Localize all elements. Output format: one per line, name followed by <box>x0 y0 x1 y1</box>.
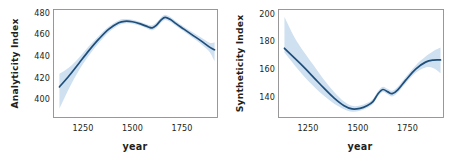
x-tick-label: 1750 <box>397 123 418 133</box>
analyticity-chart-svg: 480 460 440 420 400 1250 1500 1750 Analy… <box>0 0 226 156</box>
x-tick-label: 1250 <box>298 123 319 133</box>
y-axis-title: Syntheticity Index <box>234 15 245 112</box>
y-tick-label: 400 <box>34 94 50 104</box>
y-axis-tick-labels: 480 460 440 420 400 <box>34 8 50 105</box>
chart-panel-analyticity: 480 460 440 420 400 1250 1500 1750 Analy… <box>0 0 226 156</box>
y-axis-tick-labels: 200 180 160 140 <box>259 9 275 102</box>
y-tick-label: 160 <box>259 64 275 74</box>
x-axis-tick-labels: 1250 1500 1750 <box>73 123 193 133</box>
chart-panel-syntheticity: 200 180 160 140 1250 1500 1750 Synthetic… <box>226 0 453 156</box>
y-tick-label: 460 <box>34 29 50 39</box>
y-tick-label: 140 <box>259 92 275 102</box>
y-tick-label: 480 <box>34 8 50 18</box>
figure-two-panel-index-plots: 480 460 440 420 400 1250 1500 1750 Analy… <box>0 0 453 156</box>
y-tick-label: 200 <box>259 9 275 19</box>
y-tick-label: 440 <box>34 51 50 61</box>
syntheticity-chart-svg: 200 180 160 140 1250 1500 1750 Synthetic… <box>226 0 453 156</box>
x-tick-label: 1500 <box>122 123 143 133</box>
y-tick-label: 180 <box>259 36 275 46</box>
x-axis-title: year <box>123 141 148 152</box>
y-tick-label: 420 <box>34 73 50 83</box>
x-tick-label: 1500 <box>348 123 369 133</box>
y-axis-title: Analyticity Index <box>9 19 20 109</box>
x-axis-title: year <box>348 141 373 152</box>
x-tick-label: 1750 <box>172 123 193 133</box>
x-tick-label: 1250 <box>73 123 94 133</box>
x-axis-tick-labels: 1250 1500 1750 <box>298 123 419 133</box>
